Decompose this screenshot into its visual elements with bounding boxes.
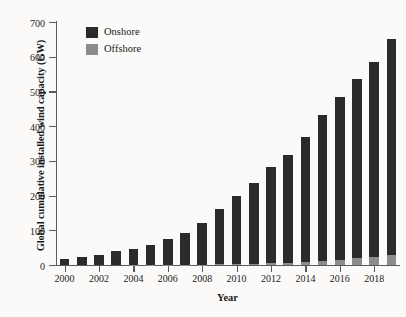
bar (266, 22, 276, 265)
bar (197, 22, 207, 265)
y-axis-tick-label: 600 (30, 52, 45, 63)
chart-legend: OnshoreOffshore (86, 27, 141, 55)
x-axis-tick-label: 2010 (227, 273, 247, 284)
y-axis-tick: 0 (49, 265, 56, 266)
bar-segment-onshore (352, 79, 362, 258)
x-axis-tick (340, 266, 341, 272)
x-axis-tick-label: 2018 (364, 273, 384, 284)
bar (283, 22, 293, 265)
x-axis-tick (168, 266, 169, 272)
bar-segment-offshore (232, 264, 242, 265)
bar-segment-onshore (249, 183, 259, 264)
bar (180, 22, 190, 265)
bar-segment-offshore (352, 258, 362, 265)
legend-item: Onshore (86, 27, 141, 38)
bar (129, 22, 139, 265)
bar-segment-offshore (335, 260, 345, 265)
legend-label: Onshore (104, 27, 140, 38)
bar (335, 22, 345, 265)
y-axis-tick-label: 100 (30, 225, 45, 236)
bar-segment-onshore (335, 97, 345, 260)
bar (60, 22, 70, 265)
bar-segment-offshore (283, 263, 293, 265)
y-axis-tick: 500 (49, 91, 56, 92)
y-axis-tick: 100 (49, 230, 56, 231)
x-axis-tick (65, 266, 66, 272)
bar-segment-onshore (94, 255, 104, 265)
x-axis-tick (271, 266, 272, 272)
bar-segment-offshore (249, 264, 259, 265)
y-axis-tick: 400 (49, 126, 56, 127)
bar (163, 22, 173, 265)
bar (352, 22, 362, 265)
bar-segment-onshore (77, 257, 87, 265)
bar-segment-onshore (301, 137, 311, 262)
legend-swatch-icon (86, 27, 98, 38)
x-axis-tick-label: 2012 (261, 273, 281, 284)
bar-segment-offshore (215, 264, 225, 265)
y-axis-tick-label: 700 (30, 17, 45, 28)
bar-segment-offshore (387, 255, 397, 265)
x-axis-tick (305, 266, 306, 272)
x-axis-tick-label: 2002 (89, 273, 109, 284)
y-axis-tick-label: 500 (30, 87, 45, 98)
bar-segment-onshore (146, 245, 156, 265)
bar-segment-onshore (387, 39, 397, 255)
y-axis-tick-label: 300 (30, 156, 45, 167)
bar (232, 22, 242, 265)
x-axis-tick (374, 266, 375, 272)
bar-segment-offshore (301, 262, 311, 265)
bar (77, 22, 87, 265)
x-axis-title: Year (55, 292, 400, 303)
x-axis-tick-label: 2004 (123, 273, 143, 284)
legend-swatch-icon (86, 44, 98, 55)
bar (94, 22, 104, 265)
bar-segment-onshore (60, 259, 70, 265)
bar (249, 22, 259, 265)
plot-area (56, 22, 400, 265)
bar-segment-onshore (369, 62, 379, 257)
bar (215, 22, 225, 265)
bar (111, 22, 121, 265)
x-axis-tick-label: 2014 (295, 273, 315, 284)
wind-capacity-chart: Global cumulative installed wind capacit… (0, 0, 406, 317)
x-axis-tick (133, 266, 134, 272)
y-axis-tick-label: 400 (30, 121, 45, 132)
bar-segment-onshore (129, 249, 139, 265)
x-axis-tick-label: 2008 (192, 273, 212, 284)
bar-segment-onshore (318, 115, 328, 261)
bar-segment-onshore (111, 251, 121, 265)
y-axis-tick: 200 (49, 196, 56, 197)
x-axis-tick (237, 266, 238, 272)
y-axis-tick-label: 0 (40, 260, 45, 271)
bar (387, 22, 397, 265)
bar-segment-offshore (369, 257, 379, 265)
x-axis-tick (99, 266, 100, 272)
x-axis-tick (202, 266, 203, 272)
bar (146, 22, 156, 265)
y-axis-tick: 600 (49, 57, 56, 58)
legend-label: Offshore (104, 44, 141, 55)
y-axis-tick: 700 (49, 22, 56, 23)
bar-segment-onshore (232, 196, 242, 264)
bar-segment-onshore (215, 209, 225, 264)
bar-segment-offshore (318, 261, 328, 265)
bar (318, 22, 328, 265)
bar-segment-offshore (266, 263, 276, 265)
bar-segment-onshore (283, 155, 293, 262)
bar-segment-onshore (197, 223, 207, 265)
bar-segment-onshore (180, 233, 190, 265)
legend-item: Offshore (86, 44, 141, 55)
x-axis-tick-label: 2006 (158, 273, 178, 284)
bar-segment-onshore (163, 239, 173, 264)
x-axis-line (56, 265, 400, 266)
bar (369, 22, 379, 265)
y-axis-tick-label: 200 (30, 191, 45, 202)
bar-segment-onshore (266, 167, 276, 263)
x-axis-tick-label: 2016 (330, 273, 350, 284)
x-axis-tick-label: 2000 (55, 273, 75, 284)
bar (301, 22, 311, 265)
y-axis-tick: 300 (49, 161, 56, 162)
